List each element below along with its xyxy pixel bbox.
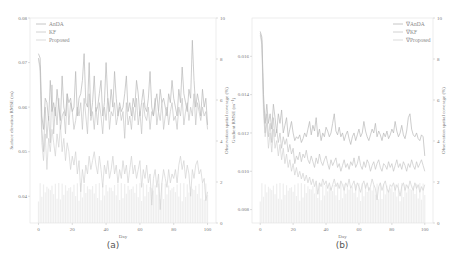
series-line [260, 31, 425, 156]
series-line [260, 35, 425, 200]
legend: AnDAKFProposed [36, 21, 70, 43]
coverage-bars [260, 183, 426, 223]
legend-label: ∇AnDA [405, 21, 425, 27]
y-right-tick-label: 6 [220, 98, 223, 103]
y-tick-label: 0.08 [18, 16, 27, 21]
legend-label: Proposed [49, 37, 70, 43]
x-tick-label: 40 [104, 227, 110, 232]
y-axis-label: Gradient RMSE (m⁻¹) [231, 98, 236, 144]
figure: 0204060801000.040.050.060.070.080246810D… [0, 0, 456, 262]
legend-label: KF [49, 29, 56, 35]
y-right-tick-label: 4 [437, 139, 440, 144]
y-right-tick-label: 2 [437, 180, 440, 185]
x-tick-label: 20 [70, 227, 76, 232]
panel-caption: (a) [107, 240, 120, 250]
y-right-tick-label: 2 [220, 180, 223, 185]
y-right-tick-label: 8 [220, 57, 223, 62]
series-line [260, 33, 425, 171]
y-right-tick-label: 0 [220, 221, 223, 226]
x-tick-label: 80 [389, 227, 395, 232]
y-axis-label: Surface elevation RMSE (m) [9, 91, 14, 150]
y-right-tick-label: 0 [437, 221, 440, 226]
y-right-tick-label: 8 [437, 57, 440, 62]
x-tick-label: 20 [291, 227, 297, 232]
y-tick-label: 0.05 [18, 149, 27, 154]
y-tick-label: 0.008 [238, 207, 250, 212]
plot-frame [30, 18, 216, 223]
chart-panel-b: 0204060801000.0080.0100.0120.0140.016024… [231, 16, 446, 250]
series-line [38, 58, 207, 210]
x-axis-label: Day [119, 234, 128, 239]
y-tick-label: 0.06 [18, 105, 27, 110]
legend-label: ∇KF [405, 29, 417, 35]
x-tick-label: 0 [259, 227, 262, 232]
y-right-tick-label: 6 [437, 98, 440, 103]
panel-caption: (b) [336, 240, 349, 250]
y-right-tick-label: 10 [220, 16, 226, 21]
y-tick-label: 0.07 [18, 60, 27, 65]
y-right-tick-label: 4 [220, 139, 223, 144]
y-tick-label: 0.012 [238, 131, 250, 136]
x-tick-label: 80 [171, 227, 177, 232]
chart-panel-a: 0204060801000.040.050.060.070.080246810D… [9, 16, 229, 250]
coverage-bars [38, 183, 208, 223]
legend: ∇AnDA∇KF∇Proposed [393, 21, 431, 43]
y-right-axis-label: Observation spatial coverage (%) [224, 87, 229, 154]
x-tick-label: 0 [37, 227, 40, 232]
y-right-tick-label: 10 [437, 16, 443, 21]
legend-label: AnDA [49, 21, 64, 27]
y-tick-label: 0.016 [238, 54, 250, 59]
x-tick-label: 40 [324, 227, 330, 232]
y-tick-label: 0.010 [238, 169, 250, 174]
y-right-axis-label: Observation spatial coverage (%) [441, 87, 446, 154]
y-tick-label: 0.014 [238, 92, 250, 97]
x-tick-label: 60 [137, 227, 143, 232]
x-axis-label: Day [338, 234, 347, 239]
x-tick-label: 100 [421, 227, 429, 232]
chart-canvas: 0204060801000.040.050.060.070.080246810D… [0, 0, 456, 262]
x-tick-label: 60 [356, 227, 362, 232]
x-tick-label: 100 [204, 227, 212, 232]
y-tick-label: 0.04 [18, 194, 27, 199]
legend-label: ∇Proposed [405, 37, 431, 43]
